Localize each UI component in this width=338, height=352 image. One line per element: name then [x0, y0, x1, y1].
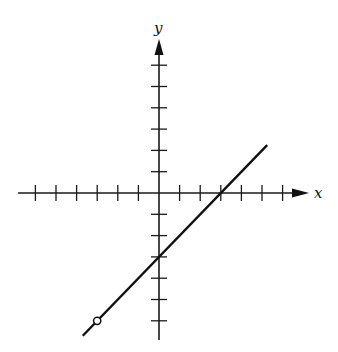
- coordinate-plane: x y: [0, 0, 338, 352]
- y-axis-arrow-icon: [155, 39, 164, 55]
- graph-line: [83, 145, 267, 336]
- x-axis-label: x: [314, 184, 323, 202]
- y-axis-label: y: [153, 19, 163, 37]
- x-axis-arrow-icon: [292, 189, 309, 198]
- open-circle-point: [94, 317, 101, 324]
